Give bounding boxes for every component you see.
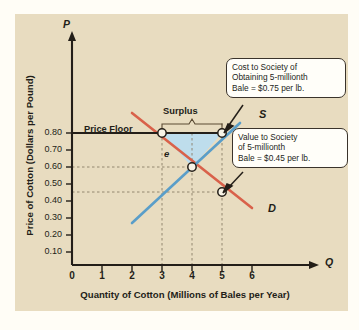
marker-equilibrium [188,163,196,171]
y-axis-title: Price of Cotton (Dollars per Pound) [24,51,35,261]
cost-callout-line-1: Cost to Society of [232,62,340,72]
y-axis-symbol: P [63,18,70,30]
value-callout-line-1: Value to Society [238,132,342,142]
x-tick-label-1: 1 [92,270,112,281]
cost-to-society-callout: Cost to Society of Obtaining 5-millionth… [226,58,346,98]
x-axis-arrow [309,261,319,269]
surplus-bracket [162,119,222,129]
value-callout-line-3: Bale = $0.45 per lb. [238,153,342,163]
marker-demand-at-floor [158,129,166,137]
equilibrium-label: e [164,148,169,159]
surplus-label: Surplus [163,106,198,116]
x-axis-title: Quantity of Cotton (Millions of Bales pe… [45,289,325,300]
x-tick-label-6: 6 [242,270,262,281]
value-to-society-callout: Value to Society of 5-millionth Bale = $… [232,128,348,168]
x-tick-label-0: 0 [62,270,82,281]
supply-curve-label: S [259,108,266,120]
value-callout-line-2: of 5-millionth [238,142,342,152]
price-floor-label: Price Floor [84,124,133,134]
cost-callout-line-3: Bale = $0.75 per lb. [232,83,340,93]
demand-curve-label: D [268,202,276,214]
cost-callout-line-2: Obtaining 5-millionth [232,72,340,82]
x-tick-label-3: 3 [152,270,172,281]
x-tick-label-4: 4 [182,270,202,281]
x-tick-label-5: 5 [212,270,232,281]
x-axis-symbol: Q [325,256,333,268]
y-axis-arrow [68,31,76,41]
x-tick-label-2: 2 [122,270,142,281]
